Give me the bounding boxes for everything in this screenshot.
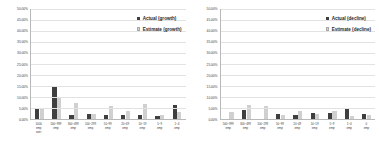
y-axis-tick: 0.00% bbox=[208, 118, 217, 122]
x-axis-label: 500~999 emp bbox=[47, 121, 64, 153]
y-axis-tick: 45.00% bbox=[207, 18, 218, 22]
bar-estimate bbox=[367, 115, 371, 119]
gridline bbox=[31, 86, 186, 87]
x-axis-label: 100~299 emp bbox=[82, 121, 99, 153]
bar-actual bbox=[328, 113, 332, 119]
bar-estimate bbox=[143, 104, 147, 119]
bar-estimate bbox=[298, 111, 302, 119]
gridline bbox=[221, 42, 376, 43]
gridline bbox=[221, 53, 376, 54]
chart-panel-growth: 0.00%5.00%10.00%15.00%20.00%25.00%30.00%… bbox=[0, 0, 190, 153]
x-axis-label: 100~299 emp bbox=[254, 121, 271, 153]
bar-actual bbox=[311, 113, 315, 119]
bar-actual bbox=[362, 114, 366, 119]
x-axis-label: 5~9 emp bbox=[151, 121, 168, 153]
legend-item: Actual (decline) bbox=[326, 16, 371, 21]
gridline bbox=[221, 86, 376, 87]
x-axis-label: 1~4 emp bbox=[168, 121, 185, 153]
y-axis-tick: 50.00% bbox=[17, 7, 28, 11]
y-axis-tick: 50.00% bbox=[207, 7, 218, 11]
y-axis-tick: 0.00% bbox=[19, 118, 28, 122]
bar-estimate bbox=[350, 116, 354, 119]
gridline bbox=[221, 108, 376, 109]
gridline bbox=[31, 64, 186, 65]
chart-panel-decline: 0.00%5.00%10.00%15.00%20.00%25.00%30.00%… bbox=[190, 0, 379, 153]
legend-item: Actual (growth) bbox=[137, 16, 182, 21]
bar-actual bbox=[69, 115, 73, 119]
legend-label: Estimate (decline) bbox=[332, 27, 371, 32]
x-axis-label: 1000 emp over bbox=[30, 121, 47, 153]
bar-estimate bbox=[229, 112, 233, 119]
x-axis-labels-decline: 500~999 emp300~499 emp100~299 emp50~99 e… bbox=[220, 121, 376, 153]
bar-actual bbox=[104, 115, 108, 119]
y-axis-tick: 10.00% bbox=[17, 96, 28, 100]
gridline bbox=[31, 9, 186, 10]
bar-estimate bbox=[126, 111, 130, 119]
bar-estimate bbox=[332, 111, 336, 119]
gridline bbox=[221, 64, 376, 65]
y-axis-tick: 25.00% bbox=[207, 63, 218, 67]
x-axis-label: 10~19 emp bbox=[134, 121, 151, 153]
y-axis-tick: 35.00% bbox=[207, 40, 218, 44]
x-axis-label: 20~49 emp bbox=[116, 121, 133, 153]
legend-label: Actual (decline) bbox=[332, 16, 366, 21]
bar-estimate bbox=[40, 109, 44, 119]
bar-estimate bbox=[160, 115, 164, 119]
x-axis-labels-growth: 1000 emp over500~999 emp300~499 emp100~2… bbox=[30, 121, 186, 153]
gridline bbox=[31, 108, 186, 109]
bar-actual bbox=[52, 86, 56, 119]
y-axis-tick: 30.00% bbox=[17, 51, 28, 55]
legend-label: Estimate (growth) bbox=[143, 27, 182, 32]
y-axis-tick: 45.00% bbox=[17, 18, 28, 22]
legend-swatch-icon bbox=[137, 27, 141, 31]
x-axis-label: 50~99 emp bbox=[99, 121, 116, 153]
gridline bbox=[31, 53, 186, 54]
y-axis-tick: 40.00% bbox=[17, 29, 28, 33]
y-axis-tick: 30.00% bbox=[207, 51, 218, 55]
gridline bbox=[221, 97, 376, 98]
y-axis-decline: 0.00%5.00%10.00%15.00%20.00%25.00%30.00%… bbox=[190, 9, 220, 120]
gridline bbox=[31, 75, 186, 76]
x-axis-label: 50~99 emp bbox=[271, 121, 288, 153]
y-axis-tick: 20.00% bbox=[17, 74, 28, 78]
bar-actual bbox=[293, 115, 297, 119]
x-axis-label: 300~499 emp bbox=[65, 121, 82, 153]
gridline bbox=[31, 97, 186, 98]
bar-actual bbox=[345, 109, 349, 119]
legend-swatch-icon bbox=[326, 27, 330, 31]
bar-estimate bbox=[315, 114, 319, 120]
legend-swatch-icon bbox=[137, 17, 141, 21]
y-axis-tick: 10.00% bbox=[207, 96, 218, 100]
y-axis-tick: 15.00% bbox=[207, 85, 218, 89]
bar-estimate bbox=[91, 114, 95, 119]
bar-actual bbox=[242, 110, 246, 119]
y-axis-tick: 35.00% bbox=[17, 40, 28, 44]
y-axis-tick: 5.00% bbox=[208, 107, 217, 111]
gridline bbox=[31, 42, 186, 43]
legend-item: Estimate (growth) bbox=[137, 27, 182, 32]
x-axis-label: 5~9 emp bbox=[323, 121, 340, 153]
legend-label: Actual (growth) bbox=[143, 16, 177, 21]
x-axis-label: 20~49 emp bbox=[289, 121, 306, 153]
y-axis-tick: 25.00% bbox=[17, 63, 28, 67]
y-axis-growth: 0.00%5.00%10.00%15.00%20.00%25.00%30.00%… bbox=[0, 9, 30, 120]
y-axis-tick: 40.00% bbox=[207, 29, 218, 33]
bar-actual bbox=[276, 114, 280, 119]
x-axis-label: 0 emp bbox=[358, 121, 375, 153]
bar-actual bbox=[155, 116, 159, 119]
bar-estimate bbox=[281, 115, 285, 119]
bar-actual bbox=[138, 115, 142, 119]
x-axis-label: 1~4 emp bbox=[340, 121, 357, 153]
bar-actual bbox=[35, 109, 39, 119]
dual-bar-chart-figure: 0.00%5.00%10.00%15.00%20.00%25.00%30.00%… bbox=[0, 0, 379, 153]
bar-actual bbox=[121, 115, 125, 119]
legend-swatch-icon bbox=[326, 17, 330, 21]
legend-growth: Actual (growth)Estimate (growth) bbox=[137, 16, 182, 32]
gridline bbox=[221, 9, 376, 10]
y-axis-tick: 5.00% bbox=[19, 107, 28, 111]
bar-estimate bbox=[177, 112, 181, 119]
x-axis-label: 10~19 emp bbox=[306, 121, 323, 153]
bar-estimate bbox=[74, 103, 78, 119]
gridline bbox=[221, 75, 376, 76]
y-axis-tick: 15.00% bbox=[17, 85, 28, 89]
